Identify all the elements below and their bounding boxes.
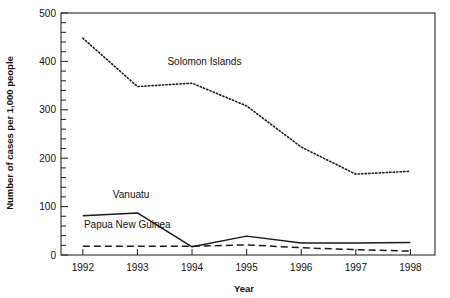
series-label-solomon-islands: Solomon Islands (167, 56, 241, 67)
x-tick-label: 1996 (290, 262, 313, 273)
x-tick-label: 1998 (399, 262, 422, 273)
y-tick-label: 400 (39, 56, 56, 67)
y-tick-label: 300 (39, 104, 56, 115)
x-tick-label: 1995 (236, 262, 259, 273)
y-tick-label: 500 (39, 8, 56, 19)
x-axis-tick-labels: 1992199319941995199619971998 (72, 262, 422, 273)
y-axis-title: Number of cases per 1,000 people (4, 56, 15, 210)
y-tick-label: 100 (39, 201, 56, 212)
y-axis-tick-labels: 0100200300400500 (39, 8, 56, 261)
series-annotations: Solomon IslandsVanuatuPapua New Guinea (84, 56, 241, 230)
chart-container: 0100200300400500 19921993199419951996199… (0, 0, 450, 298)
x-tick-label: 1994 (181, 262, 204, 273)
series-line-solomon-islands (83, 38, 411, 174)
x-tick-label: 1997 (345, 262, 368, 273)
x-tick-label: 1992 (72, 262, 95, 273)
x-tick-label: 1993 (126, 262, 149, 273)
y-tick-label: 0 (50, 250, 56, 261)
series-label-papua-new-guinea: Papua New Guinea (84, 219, 171, 230)
series-label-vanuatu: Vanuatu (113, 189, 150, 200)
line-chart: 0100200300400500 19921993199419951996199… (0, 0, 450, 298)
x-axis-title: Year (234, 283, 254, 294)
y-tick-label: 200 (39, 153, 56, 164)
y-axis-ticks (61, 13, 68, 255)
